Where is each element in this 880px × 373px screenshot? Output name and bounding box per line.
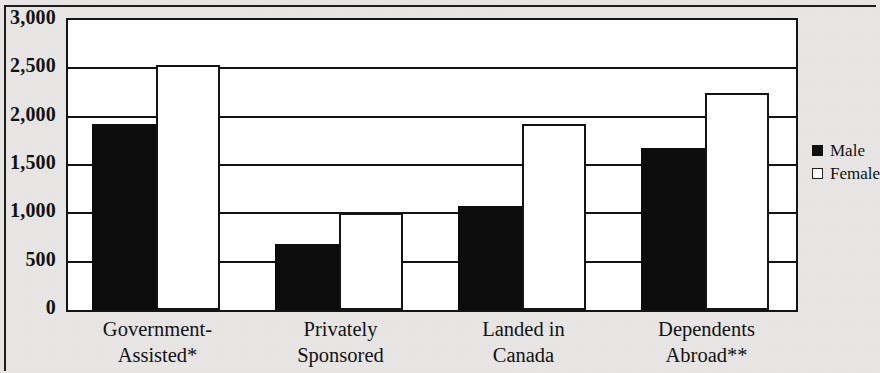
bar-male-2[interactable] [275,244,339,310]
category-label-line-2: Sponsored [249,342,432,368]
x-axis: Government-Assisted*PrivatelySponsoredLa… [66,316,798,372]
open-square-icon [812,168,823,179]
bar-male-1[interactable] [92,124,156,310]
category-label-line-1: Privately [303,318,377,340]
category-label-line-2: Canada [432,342,615,368]
x-axis-category-label: Government-Assisted* [66,316,249,368]
chart-page: 05001,0001,5002,0002,5003,000 Government… [0,0,880,373]
category-label-line-1: Government- [103,318,212,340]
bar-female-3[interactable] [522,124,586,310]
y-axis-tick-label: 2,500 [10,54,56,77]
legend-item-female[interactable]: Female [812,162,880,185]
category-label-line-1: Dependents [658,318,755,340]
x-axis-category-label: Landed inCanada [432,316,615,368]
y-axis-tick-label: 2,000 [10,103,56,126]
y-axis-tick-label: 3,000 [10,6,56,29]
y-axis: 05001,0001,5002,0002,5003,000 [0,0,62,373]
y-axis-tick-label: 1,500 [10,151,56,174]
plot-area [66,18,798,312]
bar-male-3[interactable] [458,206,522,310]
y-axis-tick-label: 1,000 [10,199,56,222]
x-axis-category-label: DependentsAbroad** [615,316,798,368]
y-axis-tick-label: 0 [46,296,56,319]
page-top-border [4,5,876,7]
legend-label: Female [830,164,880,184]
category-label-line-1: Landed in [482,318,565,340]
bar-male-4[interactable] [641,148,705,310]
bar-female-1[interactable] [156,65,220,310]
legend-label: Male [830,141,865,161]
x-axis-category-label: PrivatelySponsored [249,316,432,368]
bar-female-4[interactable] [705,93,769,311]
filled-square-icon [812,145,823,156]
category-label-line-2: Assisted* [66,342,249,368]
y-axis-tick-label: 500 [25,248,56,271]
bar-female-2[interactable] [339,213,403,310]
chart-legend: MaleFemale [812,139,880,185]
legend-item-male[interactable]: Male [812,139,880,162]
category-label-line-2: Abroad** [615,342,798,368]
